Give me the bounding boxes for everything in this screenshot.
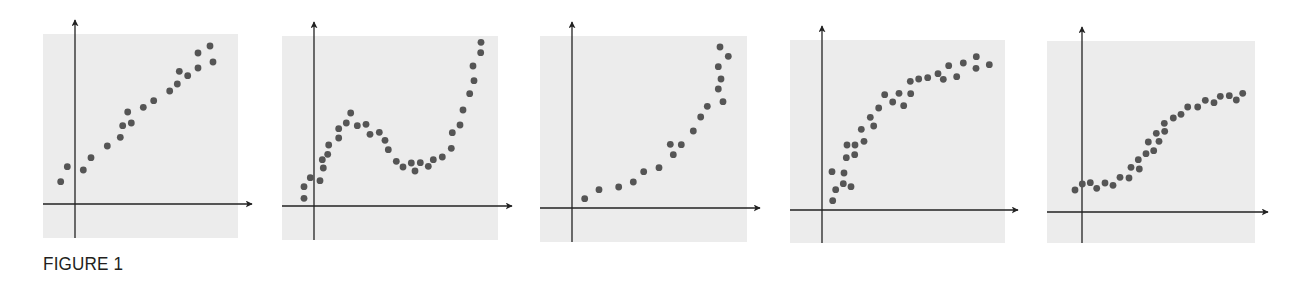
data-point [382, 137, 389, 144]
data-point [1136, 166, 1143, 173]
data-point [457, 122, 464, 129]
data-point [1161, 128, 1168, 135]
data-point [1126, 175, 1133, 182]
data-point [80, 167, 87, 174]
data-point [973, 65, 980, 72]
data-point [319, 156, 326, 163]
data-point [1217, 93, 1224, 100]
data-point [430, 156, 437, 163]
data-point [1110, 182, 1117, 189]
data-point [945, 62, 952, 69]
figure-caption: FIGURE 1 [43, 253, 123, 275]
data-point [881, 91, 888, 98]
data-point [301, 183, 308, 190]
data-point [1211, 99, 1218, 106]
data-point [64, 163, 71, 170]
data-point [195, 50, 202, 57]
data-point [670, 151, 677, 158]
data-point [408, 160, 415, 167]
data-point [720, 98, 727, 105]
data-point [852, 142, 859, 149]
data-point [986, 61, 993, 68]
data-point [128, 120, 135, 127]
data-point [478, 39, 485, 46]
data-point [960, 60, 967, 67]
data-point [1194, 104, 1201, 111]
data-point [320, 165, 327, 172]
data-point [678, 141, 685, 148]
data-point [596, 186, 603, 193]
data-point [104, 143, 111, 150]
data-point [973, 53, 980, 60]
data-point [1150, 147, 1157, 154]
data-point [1087, 179, 1094, 186]
data-point [907, 90, 914, 97]
data-point [449, 129, 456, 136]
data-point [466, 90, 473, 97]
data-point [953, 73, 960, 80]
data-point [867, 114, 874, 121]
data-point [1170, 115, 1177, 122]
data-point [832, 186, 839, 193]
data-point [439, 154, 446, 161]
data-point [1117, 174, 1124, 181]
data-point [935, 70, 942, 77]
data-point [667, 141, 674, 148]
data-point [840, 180, 847, 187]
data-point [717, 44, 724, 51]
data-point [385, 146, 392, 153]
data-point [1153, 130, 1160, 137]
data-point [704, 103, 711, 110]
data-point [57, 178, 64, 185]
data-point [1079, 181, 1086, 188]
data-point [324, 151, 331, 158]
data-point [140, 104, 147, 111]
data-point [715, 86, 722, 93]
data-point [715, 63, 722, 70]
data-point [393, 158, 400, 165]
data-point [1102, 180, 1109, 187]
data-point [896, 90, 903, 97]
data-point [425, 163, 432, 170]
data-point [656, 164, 663, 171]
data-point [119, 122, 126, 129]
data-point [829, 168, 836, 175]
data-point [347, 110, 354, 117]
data-point [477, 49, 484, 56]
data-point [354, 122, 361, 129]
data-point [843, 154, 850, 161]
data-point [1202, 97, 1209, 104]
data-point [1156, 138, 1163, 145]
data-point [124, 109, 131, 116]
data-point [889, 99, 896, 106]
data-point [400, 164, 407, 171]
data-point [363, 121, 370, 128]
data-point [207, 43, 214, 50]
data-point [1239, 90, 1246, 97]
data-point [1145, 139, 1152, 146]
data-point [150, 97, 157, 104]
data-point [1233, 97, 1240, 104]
data-point [940, 76, 947, 83]
data-point [88, 154, 95, 161]
data-point [176, 68, 183, 75]
data-point [697, 114, 704, 121]
data-point [829, 197, 836, 204]
data-point [725, 53, 732, 60]
data-point [448, 145, 455, 152]
data-point [460, 107, 467, 114]
data-point [470, 63, 477, 70]
data-point [900, 102, 907, 109]
data-point [615, 184, 622, 191]
data-point [924, 74, 931, 81]
data-point [325, 142, 332, 149]
data-point [1184, 104, 1191, 111]
data-point [1178, 111, 1185, 118]
data-point [915, 76, 922, 83]
data-point [1161, 120, 1168, 127]
data-point [1093, 185, 1100, 192]
data-point [174, 81, 181, 88]
data-point [317, 177, 324, 184]
data-point [335, 125, 342, 132]
scatter-panel-2 [282, 22, 512, 240]
